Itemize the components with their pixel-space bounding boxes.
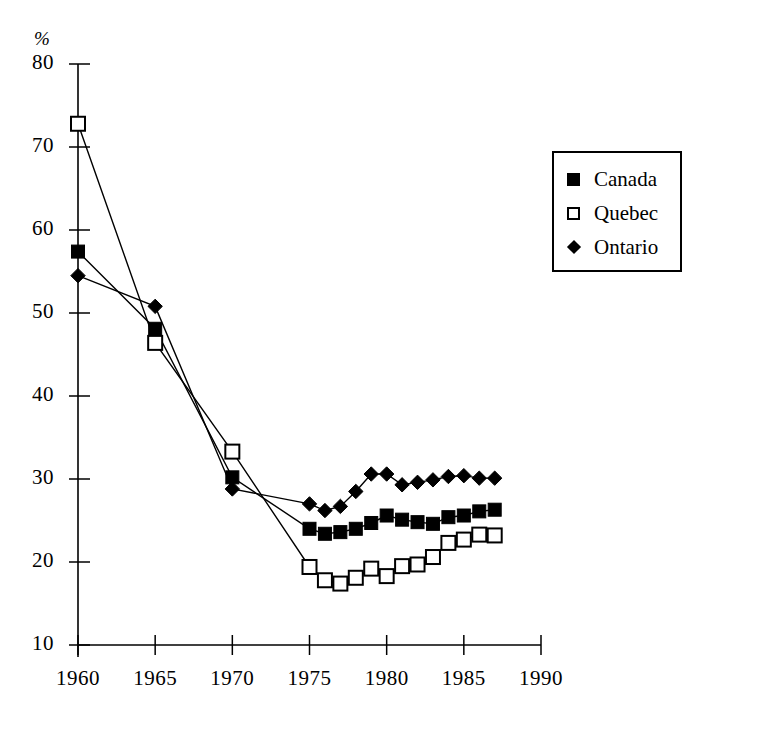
y-axis-tick-label: 50 (8, 299, 54, 324)
data-point-marker (488, 503, 501, 516)
data-point-marker (411, 557, 425, 571)
data-point-marker (411, 516, 424, 529)
legend-item-label: Canada (594, 167, 657, 192)
x-axis-tick-label: 1980 (348, 666, 426, 691)
data-point-marker (303, 560, 317, 574)
data-point-marker (472, 471, 486, 485)
data-point-marker (457, 533, 471, 547)
data-point-marker (318, 503, 332, 517)
data-point-marker (71, 117, 85, 131)
data-point-marker (441, 469, 455, 483)
chart-legend: CanadaQuebecOntario (552, 151, 682, 272)
x-axis-tick-label: 1990 (502, 666, 580, 691)
plot-area (0, 0, 780, 731)
data-point-marker (334, 526, 347, 539)
data-point-marker (442, 511, 455, 524)
data-point-marker (472, 528, 486, 542)
y-axis-tick-label: 20 (8, 548, 54, 573)
y-axis-tick-label: 80 (8, 50, 54, 75)
x-axis-tick-label: 1975 (271, 666, 349, 691)
legend-marker-slot (566, 172, 581, 187)
x-axis-tick-label: 1970 (193, 666, 271, 691)
y-axis-tick-label: 40 (8, 382, 54, 407)
data-point-marker (225, 445, 239, 459)
data-point-marker (426, 517, 439, 530)
x-axis-tick-label: 1985 (425, 666, 503, 691)
data-point-marker (148, 299, 162, 313)
data-point-marker (303, 522, 316, 535)
filled-diamond-icon (567, 240, 581, 254)
data-point-marker (365, 516, 378, 529)
data-point-marker (457, 468, 471, 482)
data-point-marker (426, 473, 440, 487)
x-axis-tick-label: 1965 (116, 666, 194, 691)
filled-square-icon (567, 173, 580, 186)
y-axis-tick-label: 10 (8, 631, 54, 656)
data-point-marker (396, 513, 409, 526)
legend-item-quebec: Quebec (566, 200, 658, 226)
series-line (78, 252, 495, 534)
legend-item-canada: Canada (566, 166, 657, 192)
data-point-marker (318, 527, 331, 540)
data-point-marker (302, 497, 316, 511)
data-point-marker (395, 559, 409, 573)
data-point-marker (488, 528, 502, 542)
data-point-marker (473, 505, 486, 518)
data-point-marker (395, 478, 409, 492)
data-point-marker (410, 475, 424, 489)
y-axis-tick-label: 30 (8, 465, 54, 490)
y-axis-tick-label: 70 (8, 133, 54, 158)
data-point-marker (333, 577, 347, 591)
data-point-marker (426, 550, 440, 564)
data-point-marker (380, 569, 394, 583)
data-point-marker (349, 571, 363, 585)
data-point-marker (364, 562, 378, 576)
series-line (78, 124, 495, 584)
data-point-marker (71, 268, 85, 282)
data-point-marker (318, 573, 332, 587)
legend-item-label: Quebec (594, 201, 658, 226)
data-point-marker (379, 467, 393, 481)
legend-item-label: Ontario (594, 235, 658, 260)
data-point-marker (72, 245, 85, 258)
chart-figure: % CanadaQuebecOntario 102030405060708019… (0, 0, 780, 731)
series-ontario (71, 268, 502, 517)
data-point-marker (488, 471, 502, 485)
data-point-marker (148, 336, 162, 350)
y-axis-tick-label: 60 (8, 216, 54, 241)
data-point-marker (441, 536, 455, 550)
legend-item-ontario: Ontario (566, 234, 658, 260)
legend-marker-slot (566, 240, 581, 255)
data-point-marker (457, 509, 470, 522)
data-point-marker (380, 509, 393, 522)
legend-marker-slot (566, 206, 581, 221)
x-axis-tick-label: 1960 (39, 666, 117, 691)
open-square-icon (567, 207, 580, 220)
data-point-marker (349, 522, 362, 535)
